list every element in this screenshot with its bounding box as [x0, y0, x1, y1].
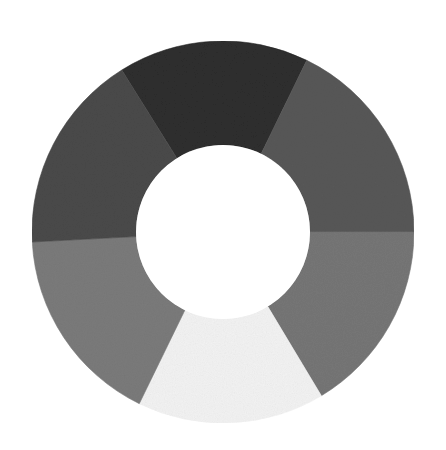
painted-ring-image: [0, 0, 446, 450]
center-hole: [136, 145, 310, 319]
donut-ring: [0, 0, 446, 450]
